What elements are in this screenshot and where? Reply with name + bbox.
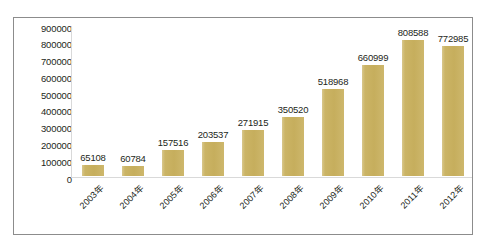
bar-value-label: 60784 xyxy=(105,154,161,164)
y-axis-tick-label: 400000 xyxy=(14,107,72,117)
x-axis-tick-text: 2010年 xyxy=(358,183,386,211)
x-axis-tick-label: 2006年 xyxy=(192,186,232,204)
bar-value-label: 772985 xyxy=(425,34,481,44)
x-axis-tick-label: 2008年 xyxy=(272,186,312,204)
chart-frame: 9000008000007000006000005000004000003000… xyxy=(13,17,473,235)
x-axis-tick-label: 2010年 xyxy=(352,186,392,204)
x-axis-tick-text: 2004年 xyxy=(118,183,146,211)
bar[interactable] xyxy=(362,65,384,176)
bar[interactable] xyxy=(202,142,224,176)
x-axis-tick-text: 2007年 xyxy=(238,183,266,211)
bar-series: 6510860784157516203537271915350520518968… xyxy=(72,26,472,177)
y-axis-tick-label: 300000 xyxy=(14,124,72,134)
x-axis-tick-text: 2008年 xyxy=(278,183,306,211)
bar-value-label: 350520 xyxy=(265,105,321,115)
x-axis-tick-label: 2004年 xyxy=(112,186,152,204)
x-axis-tick-label: 2007年 xyxy=(232,186,272,204)
x-axis-tick-text: 2009年 xyxy=(318,183,346,211)
bar[interactable] xyxy=(122,166,144,176)
x-axis-tick-label: 2009年 xyxy=(312,186,352,204)
bar-value-label: 660999 xyxy=(345,53,401,63)
plot-area: 6510860784157516203537271915350520518968… xyxy=(71,26,472,178)
bar-value-label: 518968 xyxy=(305,77,361,87)
y-axis-tick-label: 100000 xyxy=(14,158,72,168)
bar[interactable] xyxy=(322,89,344,176)
bar[interactable] xyxy=(282,117,304,176)
x-axis-tick-label: 2011年 xyxy=(392,186,432,204)
x-axis-tick-text: 2011年 xyxy=(398,183,425,210)
y-axis-tick-label: 600000 xyxy=(14,74,72,84)
bar-value-label: 203537 xyxy=(185,130,241,140)
y-axis-tick-label: 700000 xyxy=(14,57,72,67)
x-axis-tick-text: 2003年 xyxy=(78,183,106,211)
x-axis-tick-text: 2006年 xyxy=(198,183,226,211)
bar[interactable] xyxy=(242,130,264,176)
bar-value-label: 271915 xyxy=(225,118,281,128)
bar[interactable] xyxy=(402,40,424,176)
y-axis-tick-label: 500000 xyxy=(14,91,72,101)
bar[interactable] xyxy=(162,150,184,176)
bar[interactable] xyxy=(442,46,464,176)
bar[interactable] xyxy=(82,165,104,176)
y-axis-tick-label: 0 xyxy=(14,175,72,185)
x-axis-tick-label: 2005年 xyxy=(152,186,192,204)
x-axis: 2003年2004年2005年2006年2007年2008年2009年2010年… xyxy=(71,180,472,226)
y-axis-tick-label: 200000 xyxy=(14,141,72,151)
x-axis-tick-text: 2012年 xyxy=(438,183,466,211)
x-axis-tick-text: 2005年 xyxy=(158,183,186,211)
x-axis-tick-label: 2003年 xyxy=(72,186,112,204)
x-axis-tick-label: 2012年 xyxy=(432,186,472,204)
y-axis-tick-label: 800000 xyxy=(14,40,72,50)
y-axis-tick-label: 900000 xyxy=(14,24,72,34)
y-axis: 9000008000007000006000005000004000003000… xyxy=(14,28,72,168)
